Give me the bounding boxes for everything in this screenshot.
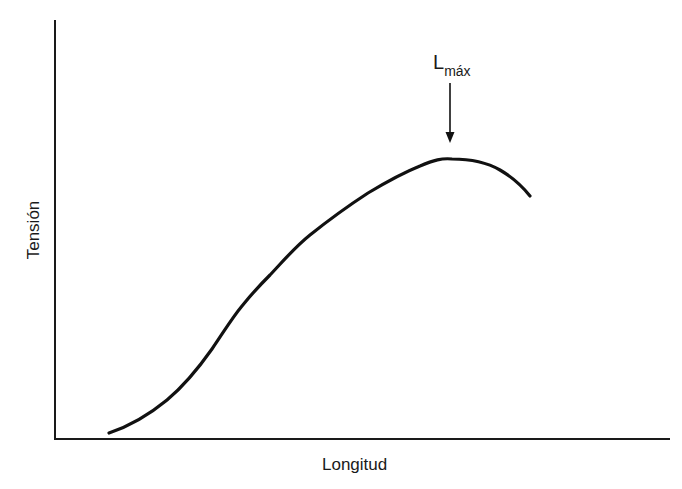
x-axis-label: Longitud (322, 456, 387, 473)
tension-length-curve (109, 159, 530, 433)
annotation-main-text: L (433, 51, 444, 73)
chart-canvas (0, 0, 682, 489)
annotation-subscript: máx (444, 63, 470, 79)
y-axis-label: Tensión (25, 201, 42, 260)
lmax-annotation: Lmáx (433, 52, 471, 72)
arrow-down-icon (446, 132, 455, 143)
